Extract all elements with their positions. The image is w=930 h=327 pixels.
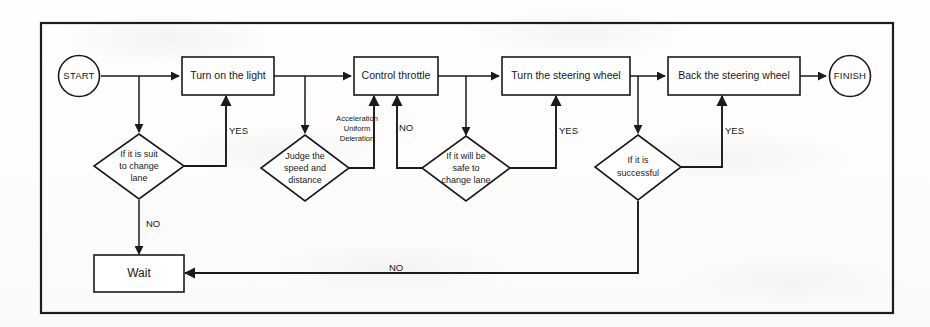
- safe-decision-line1: If it will be: [446, 151, 486, 161]
- node-decision-safe-to-change-lane[interactable]: If it will be safe to change lane: [422, 136, 510, 201]
- judge-decision-line3: distance: [288, 175, 322, 185]
- back-steering-label: Back the steering wheel: [678, 69, 789, 81]
- node-decision-suit-to-change-lane[interactable]: If it is suit to change lane: [94, 134, 184, 199]
- edge-label-yes-suit: YES: [229, 125, 248, 136]
- turn-steering-label: Turn the steering wheel: [511, 69, 620, 81]
- node-wait[interactable]: Wait: [94, 255, 184, 292]
- node-back-the-steering-wheel[interactable]: Back the steering wheel: [668, 57, 800, 95]
- success-decision-line1: If it is: [627, 155, 649, 165]
- throttle-note-line2: Uniform: [344, 124, 371, 133]
- turn-on-light-label: Turn on the light: [190, 69, 266, 81]
- throttle-note-line1: Acceleration: [336, 114, 378, 123]
- safe-decision-line3: change lane: [441, 175, 490, 185]
- edge-label-no-success: NO: [389, 262, 403, 273]
- node-turn-on-the-light[interactable]: Turn on the light: [182, 57, 274, 95]
- annotation-throttle-note: Acceleration Uniform Deleration: [336, 114, 378, 143]
- node-control-throttle[interactable]: Control throttle: [354, 57, 438, 95]
- edge-success-yes-to-back-steering: [681, 96, 722, 167]
- suit-decision-line3: lane: [130, 173, 147, 183]
- success-decision-line2: successful: [617, 168, 659, 178]
- node-start[interactable]: START: [59, 56, 100, 97]
- control-throttle-label: Control throttle: [362, 69, 431, 81]
- start-label: START: [63, 70, 94, 81]
- edge-label-yes-success: YES: [725, 125, 744, 136]
- edge-label-no-suit: NO: [146, 218, 160, 229]
- flowchart-canvas: START Turn on the light Control throttle…: [0, 0, 930, 327]
- finish-label: FINISH: [834, 70, 866, 81]
- node-finish[interactable]: FINISH: [830, 56, 871, 97]
- edge-success-no-to-wait: [185, 201, 638, 273]
- suit-decision-line2: to change: [119, 161, 159, 171]
- suit-decision-line1: If it is suit: [120, 149, 158, 159]
- judge-decision-line1: Judge the: [285, 151, 325, 161]
- node-turn-the-steering-wheel[interactable]: Turn the steering wheel: [502, 57, 630, 95]
- node-decision-is-successful[interactable]: If it is successful: [595, 135, 681, 200]
- edge-label-no-safe: NO: [399, 122, 413, 133]
- edge-label-yes-safe: YES: [559, 125, 578, 136]
- judge-decision-line2: speed and: [284, 163, 326, 173]
- throttle-note-line3: Deleration: [340, 134, 375, 143]
- edge-safe-yes-to-turn-steering: [509, 96, 556, 168]
- safe-decision-line2: safe to: [452, 163, 479, 173]
- wait-label: Wait: [127, 266, 151, 280]
- flowchart-svg: START Turn on the light Control throttle…: [0, 0, 930, 327]
- edge-suit-yes-to-light: [184, 96, 226, 166]
- node-decision-judge-speed-distance[interactable]: Judge the speed and distance: [261, 135, 349, 201]
